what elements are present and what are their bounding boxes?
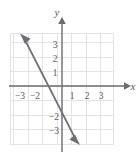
- x-tick-label-neg3: −3: [15, 91, 25, 101]
- x-tick-label-3: 3: [99, 91, 104, 101]
- coordinate-plane-figure: −3 −2 1 2 3 3 2 1 −2 −3 y x: [0, 0, 139, 153]
- y-axis: [58, 17, 66, 152]
- x-tick-label-1: 1: [70, 91, 75, 101]
- y-axis-label: y: [54, 6, 60, 18]
- y-tick-label-neg3: −3: [49, 126, 59, 136]
- y-tick-label-2: 2: [53, 54, 58, 64]
- x-tick-label-neg2: −2: [30, 91, 40, 101]
- y-tick-label-neg2: −2: [49, 112, 59, 122]
- y-tick-label-3: 3: [53, 40, 58, 50]
- y-tick-label-1: 1: [53, 68, 58, 78]
- x-tick-label-2: 2: [85, 91, 90, 101]
- graph-canvas: −3 −2 1 2 3 3 2 1 −2 −3 y x: [0, 0, 139, 153]
- x-axis-label: x: [130, 80, 136, 92]
- y-axis-arrowhead: [58, 17, 66, 24]
